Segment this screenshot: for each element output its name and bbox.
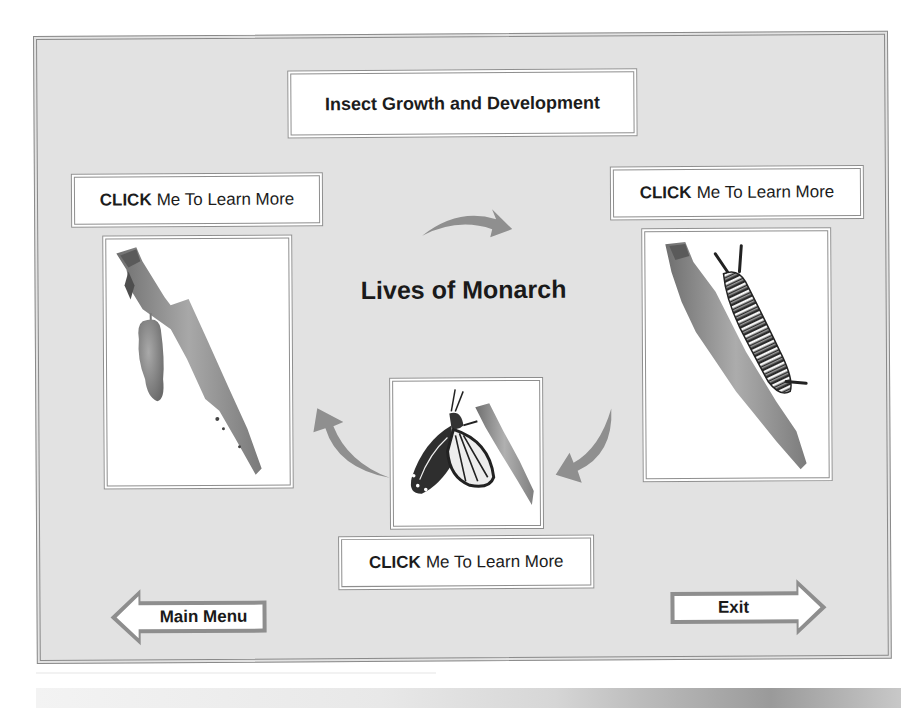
learn-more-button-caterpillar[interactable]: CLICK Me To Learn More xyxy=(610,165,864,221)
page-title-text: Insect Growth and Development xyxy=(325,92,600,115)
page-title: Insect Growth and Development xyxy=(287,68,637,138)
scan-artifact-line xyxy=(36,672,436,674)
cycle-arrow-top-icon xyxy=(418,203,518,244)
butterfly-image[interactable] xyxy=(389,377,544,530)
cycle-arrow-right-icon xyxy=(551,404,622,490)
exit-button[interactable]: Exit xyxy=(668,577,828,638)
click-label: CLICK xyxy=(369,553,421,573)
learn-more-label: Me To Learn More xyxy=(426,552,564,573)
click-label: CLICK xyxy=(100,190,152,210)
learn-more-label: Me To Learn More xyxy=(157,189,295,210)
main-menu-button[interactable]: Main Menu xyxy=(108,587,268,648)
exit-label: Exit xyxy=(670,591,796,624)
main-menu-label: Main Menu xyxy=(140,601,266,634)
main-panel: Insect Growth and Development CLICK Me T… xyxy=(33,31,892,664)
butterfly-illustration xyxy=(393,381,540,526)
scan-artifact-strip xyxy=(36,688,901,708)
learn-more-button-chrysalis[interactable]: CLICK Me To Learn More xyxy=(71,172,323,228)
click-label: CLICK xyxy=(640,183,692,203)
caterpillar-image[interactable] xyxy=(641,227,833,482)
learn-more-button-butterfly[interactable]: CLICK Me To Learn More xyxy=(338,535,594,591)
cycle-arrow-left-icon xyxy=(303,406,393,483)
caterpillar-illustration xyxy=(645,231,828,478)
chrysalis-image[interactable] xyxy=(102,234,294,489)
learn-more-label: Me To Learn More xyxy=(697,182,835,203)
lifecycle-heading: Lives of Monarch xyxy=(338,275,588,306)
chrysalis-illustration xyxy=(106,238,289,485)
